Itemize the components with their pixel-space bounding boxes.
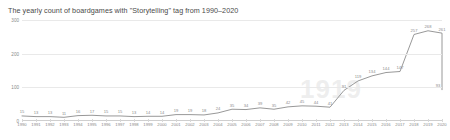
- x-axis-tick-label: 2009: [283, 122, 292, 127]
- x-axis-tick-label: 1991: [31, 122, 40, 127]
- plot-area: 0100200300151313111617151513141419191824…: [22, 20, 442, 121]
- chart-root: The yearly count of boardgames with "Sto…: [0, 0, 450, 140]
- x-axis-tick-label: 2004: [213, 122, 222, 127]
- x-axis-tick-label: 2018: [409, 122, 418, 127]
- x-axis-tick-label: 1997: [115, 122, 124, 127]
- x-axis-tick-label: 2016: [381, 122, 390, 127]
- gridline: [22, 54, 442, 55]
- x-axis-tick-label: 2007: [255, 122, 264, 127]
- x-axis: 1990199119921993199419951996199719981999…: [22, 122, 442, 138]
- x-axis-tick-label: 2011: [311, 122, 320, 127]
- y-axis-tick-label: 300: [11, 18, 19, 23]
- x-axis-tick-label: 1993: [59, 122, 68, 127]
- x-axis-tick-label: 2020: [437, 122, 446, 127]
- x-axis-tick-label: 2010: [297, 122, 306, 127]
- x-axis-tick-label: 2006: [241, 122, 250, 127]
- x-axis-tick-label: 2005: [227, 122, 236, 127]
- x-axis-tick-label: 2003: [199, 122, 208, 127]
- x-axis-tick-label: 2000: [157, 122, 166, 127]
- x-axis-tick-label: 2014: [353, 122, 362, 127]
- x-axis-tick-label: 2019: [423, 122, 432, 127]
- x-axis-tick-label: 2013: [339, 122, 348, 127]
- x-axis-tick-label: 2001: [171, 122, 180, 127]
- x-axis-tick-label: 1996: [101, 122, 110, 127]
- x-axis-tick-label: 1999: [143, 122, 152, 127]
- x-axis-tick-label: 1994: [73, 122, 82, 127]
- series-path: [22, 31, 442, 118]
- x-axis-tick-label: 2015: [367, 122, 376, 127]
- x-axis-tick-label: 2008: [269, 122, 278, 127]
- x-axis-tick-label: 1998: [129, 122, 138, 127]
- x-axis-tick-label: 1992: [45, 122, 54, 127]
- x-axis-tick-label: 2012: [325, 122, 334, 127]
- chart-title: The yearly count of boardgames with "Sto…: [8, 6, 238, 15]
- y-axis-tick-label: 200: [11, 51, 19, 56]
- x-axis-tick-label: 1995: [87, 122, 96, 127]
- x-axis-tick-label: 1990: [17, 122, 26, 127]
- gridline: [22, 87, 442, 88]
- gridline: [22, 20, 442, 21]
- series-line: [22, 20, 442, 121]
- x-axis-tick-label: 2002: [185, 122, 194, 127]
- x-axis-tick-label: 2017: [395, 122, 404, 127]
- y-axis-tick-label: 100: [11, 85, 19, 90]
